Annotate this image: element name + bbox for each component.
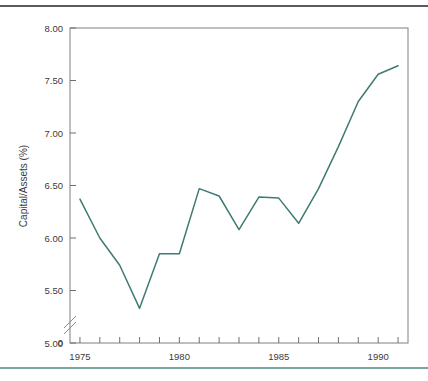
y-axis-tick-label: 8.00 bbox=[45, 23, 64, 34]
y-axis: 5.005.506.006.507.007.508.00 bbox=[45, 23, 77, 349]
y-axis-tick-label: 5.50 bbox=[45, 285, 64, 296]
top-divider-rule bbox=[0, 5, 428, 7]
y-axis-tick-label: 6.00 bbox=[45, 233, 64, 244]
y-axis-title: Capital/Assets (%) bbox=[18, 145, 29, 227]
line-chart: 5.005.506.006.507.007.508.00 0 197519801… bbox=[0, 10, 428, 362]
bottom-accent-rule bbox=[0, 367, 428, 369]
chart-area: 5.005.506.006.507.007.508.00 0 197519801… bbox=[0, 10, 428, 362]
plot-frame bbox=[70, 28, 408, 343]
y-axis-tick-label: 7.50 bbox=[45, 75, 64, 86]
y-axis-origin-label: 0 bbox=[58, 337, 63, 348]
x-axis-tick-label: 1985 bbox=[268, 351, 289, 362]
y-axis-tick-label: 7.00 bbox=[45, 128, 64, 139]
y-axis-tick-label: 6.50 bbox=[45, 180, 64, 191]
x-axis: 1975198019851990 bbox=[69, 337, 398, 362]
x-axis-tick-label: 1990 bbox=[368, 351, 389, 362]
x-axis-tick-label: 1975 bbox=[69, 351, 90, 362]
x-axis-tick-label: 1980 bbox=[169, 351, 190, 362]
data-series-line bbox=[80, 66, 398, 309]
figure-container: 5.005.506.006.507.007.508.00 0 197519801… bbox=[0, 0, 428, 381]
